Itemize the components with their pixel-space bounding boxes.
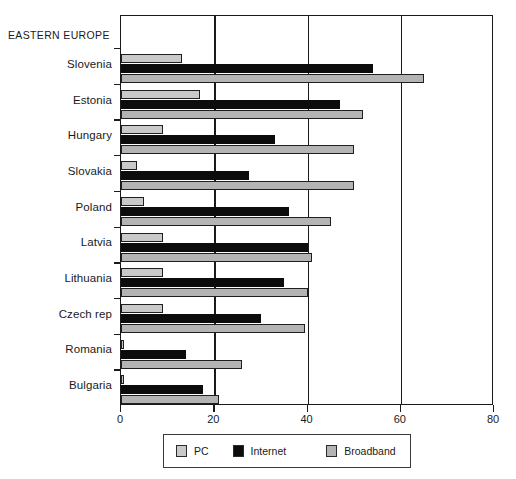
- legend-swatch-broadband-icon: [326, 445, 337, 457]
- x-tick-label-0: 0: [117, 413, 123, 425]
- bar-hungary-pc: [121, 125, 163, 134]
- bar-bulgaria-pc: [121, 375, 124, 384]
- bar-slovakia-pc: [121, 161, 137, 170]
- x-tick-80: [493, 405, 494, 412]
- category-label-slovenia: Slovenia: [67, 58, 112, 70]
- bar-romania-pc: [121, 340, 124, 349]
- category-label-lithuania: Lithuania: [64, 272, 112, 284]
- grouped-bar-chart: EASTERN EUROPE SloveniaEstoniaHungarySlo…: [0, 0, 516, 479]
- y-tick-bulgaria: [114, 369, 121, 370]
- bar-hungary-broadband: [121, 145, 354, 154]
- bar-latvia-broadband: [121, 253, 312, 262]
- x-tick-label-80: 80: [487, 413, 499, 425]
- bar-czech-rep-internet: [121, 314, 261, 323]
- bar-bulgaria-broadband: [121, 395, 219, 404]
- x-tick-label-20: 20: [207, 413, 219, 425]
- x-tick-20: [213, 405, 214, 412]
- y-tick-czech-rep: [114, 298, 121, 299]
- category-label-latvia: Latvia: [81, 236, 112, 248]
- chart-legend: PCInternetBroadband: [163, 434, 411, 468]
- bar-slovakia-broadband: [121, 181, 354, 190]
- bar-poland-broadband: [121, 217, 331, 226]
- bar-poland-internet: [121, 207, 289, 216]
- bar-lithuania-internet: [121, 278, 284, 287]
- plot-area: [120, 15, 493, 405]
- legend-item-broadband[interactable]: Broadband: [326, 445, 395, 457]
- bar-estonia-pc: [121, 90, 200, 99]
- y-tick-estonia: [114, 84, 121, 85]
- x-tick-label-40: 40: [300, 413, 312, 425]
- bar-romania-broadband: [121, 360, 242, 369]
- legend-label-broadband: Broadband: [344, 445, 395, 457]
- legend-label-internet: Internet: [251, 445, 287, 457]
- bar-slovenia-internet: [121, 64, 373, 73]
- bar-latvia-pc: [121, 233, 163, 242]
- category-label-hungary: Hungary: [68, 129, 112, 141]
- category-label-bulgaria: Bulgaria: [69, 379, 112, 391]
- bar-czech-rep-broadband: [121, 324, 305, 333]
- category-label-estonia: Estonia: [73, 94, 112, 106]
- y-tick-hungary: [114, 119, 121, 120]
- bar-hungary-internet: [121, 135, 275, 144]
- bar-slovakia-internet: [121, 171, 249, 180]
- category-axis: SloveniaEstoniaHungarySlovakiaPolandLatv…: [0, 15, 116, 405]
- y-tick-slovenia: [114, 48, 121, 49]
- category-label-romania: Romania: [65, 343, 112, 355]
- bar-romania-internet: [121, 350, 186, 359]
- x-tick-label-60: 60: [394, 413, 406, 425]
- bar-czech-rep-pc: [121, 304, 163, 313]
- bar-estonia-internet: [121, 100, 340, 109]
- legend-swatch-pc-icon: [176, 445, 187, 457]
- bar-bulgaria-internet: [121, 385, 203, 394]
- legend-label-pc: PC: [194, 445, 209, 457]
- y-tick-poland: [114, 191, 121, 192]
- legend-swatch-internet-icon: [233, 445, 244, 457]
- legend-item-pc[interactable]: PC: [176, 445, 209, 457]
- category-label-czech-rep: Czech rep: [59, 308, 112, 320]
- y-tick-lithuania: [114, 262, 121, 263]
- bar-poland-pc: [121, 197, 144, 206]
- bar-slovenia-pc: [121, 54, 182, 63]
- bar-latvia-internet: [121, 243, 308, 252]
- category-label-poland: Poland: [76, 201, 112, 213]
- y-tick-latvia: [114, 227, 121, 228]
- bar-lithuania-pc: [121, 268, 163, 277]
- legend-item-internet[interactable]: Internet: [233, 445, 287, 457]
- bar-estonia-broadband: [121, 110, 363, 119]
- x-tick-40: [307, 405, 308, 412]
- bar-lithuania-broadband: [121, 288, 308, 297]
- x-tick-0: [120, 405, 121, 412]
- y-tick-slovakia: [114, 155, 121, 156]
- category-label-slovakia: Slovakia: [68, 165, 112, 177]
- bar-slovenia-broadband: [121, 74, 424, 83]
- y-tick-romania: [114, 334, 121, 335]
- x-tick-60: [400, 405, 401, 412]
